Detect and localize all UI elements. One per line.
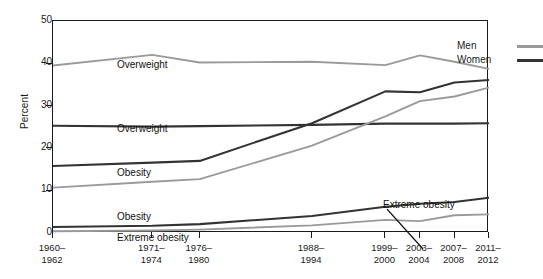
x-tick-mark-5 bbox=[419, 232, 420, 238]
x-tick-mark-2 bbox=[199, 232, 200, 238]
x-tick-mark-4 bbox=[384, 232, 385, 238]
x-tick-label-2: 1976–1980 bbox=[169, 242, 229, 265]
legend-swatch-men-icon bbox=[517, 45, 543, 48]
x-tick-label-0: 1960–1962 bbox=[22, 242, 82, 265]
x-tick-mark-6 bbox=[454, 232, 455, 238]
x-tick-mark-0 bbox=[52, 232, 53, 238]
legend-swatch-women-icon bbox=[517, 59, 543, 62]
x-tick-mark-3 bbox=[311, 232, 312, 238]
x-tick-label-7: 2011–2012 bbox=[458, 242, 518, 265]
x-tick-label-3: 1988–1994 bbox=[281, 242, 341, 265]
x-tick-mark-1 bbox=[151, 232, 152, 238]
x-tick-mark-7 bbox=[488, 232, 489, 238]
